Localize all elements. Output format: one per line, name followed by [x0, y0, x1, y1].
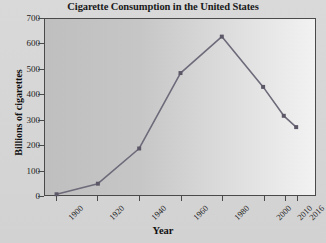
x-tick-mark-1940	[139, 196, 140, 201]
x-tick-mark-1960	[181, 196, 182, 201]
x-tick-label-1980: 1980	[232, 203, 251, 222]
data-point-2010	[282, 114, 286, 118]
x-tick-mark-1920	[97, 196, 98, 201]
x-axis-label: Year	[0, 225, 326, 236]
plot-area	[44, 18, 316, 196]
x-tick-mark-2000	[264, 196, 265, 201]
x-tick-mark-2010	[285, 196, 286, 201]
y-tick-mark-200	[38, 145, 44, 146]
x-tick-label-1920: 1920	[107, 203, 126, 222]
y-tick-mark-300	[38, 120, 44, 121]
y-tick-label-0: 0	[0, 191, 40, 201]
y-tick-label-700: 700	[0, 13, 40, 23]
y-tick-mark-100	[38, 171, 44, 172]
chart-title: Cigarette Consumption in the United Stat…	[0, 1, 326, 12]
y-tick-mark-600	[38, 43, 44, 44]
y-tick-mark-500	[38, 69, 44, 70]
x-tick-label-2000: 2000	[274, 203, 293, 222]
data-point-1980	[220, 35, 224, 39]
data-point-1960	[179, 71, 183, 75]
data-point-markers	[55, 35, 299, 197]
x-tick-mark-2016	[297, 196, 298, 201]
data-point-2000	[261, 85, 265, 89]
data-series-svg	[45, 19, 315, 195]
data-point-1920	[96, 182, 100, 186]
line-series-cigarette-consumption	[57, 37, 297, 195]
y-axis-label: Billions of cigarettes	[13, 38, 24, 188]
y-tick-mark-700	[38, 18, 44, 19]
x-tick-label-1940: 1940	[149, 203, 168, 222]
x-tick-mark-1980	[222, 196, 223, 201]
data-point-1940	[137, 147, 141, 151]
x-tick-mark-1900	[56, 196, 57, 201]
y-tick-mark-0	[38, 196, 44, 197]
x-tick-label-1900: 1900	[66, 203, 85, 222]
x-tick-label-1960: 1960	[190, 203, 209, 222]
y-tick-mark-400	[38, 94, 44, 95]
chart-figure: Cigarette Consumption in the United Stat…	[0, 0, 326, 243]
data-point-2016	[294, 125, 298, 129]
